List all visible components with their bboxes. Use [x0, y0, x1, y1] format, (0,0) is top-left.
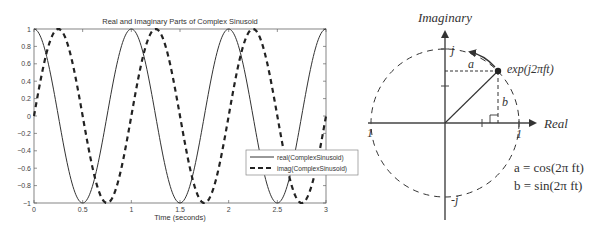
x-tick-label: 3 [324, 206, 328, 213]
y-tick-label: 0.8 [21, 43, 31, 50]
y-tick-label: −0.6 [17, 165, 31, 172]
label-b: b [502, 95, 508, 109]
y-tick-label: −0.4 [17, 147, 31, 154]
y-axis-ticks: 10.80.60.40.20−0.2−0.4−0.6−0.8−1 [17, 26, 326, 207]
y-tick-label: −1 [23, 200, 31, 207]
imag-part-curve [34, 29, 326, 203]
real-axis-label: Real [543, 116, 568, 131]
chart-title: Real and Imaginary Parts of Complex Sinu… [102, 17, 258, 26]
y-tick-label: 0.2 [21, 95, 31, 102]
label-neg-j: -j [451, 193, 459, 207]
y-tick-label: −0.8 [17, 182, 31, 189]
legend-label-real: real(ComplexSinusoid) [277, 154, 344, 162]
x-tick-label: 0 [32, 206, 36, 213]
equation-a: a = cos(2π ft) [514, 160, 584, 175]
x-tick-label: 2.5 [272, 206, 282, 213]
y-tick-label: 1 [27, 26, 31, 33]
phasor-point [495, 68, 501, 74]
legend: real(ComplexSinusoid) imag(ComplexSinuso… [246, 150, 358, 175]
label-one: 1 [516, 127, 522, 141]
label-a: a [468, 57, 474, 71]
unit-circle-phasor-diagram: Imaginary Real exp(j2πft) j -j 1 1 a b a… [360, 0, 599, 232]
x-tick-label: 0.5 [78, 206, 88, 213]
x-tick-label: 1.5 [175, 206, 185, 213]
y-tick-label: 0.4 [21, 78, 31, 85]
y-tick-label: 0 [27, 113, 31, 120]
x-tick-label: 1 [129, 206, 133, 213]
x-tick-label: 2 [227, 206, 231, 213]
x-axis-label: Time (seconds) [154, 213, 206, 222]
right-angle-marker [490, 115, 498, 123]
point-label: exp(j2πft) [507, 62, 554, 76]
y-tick-label: −0.2 [17, 130, 31, 137]
imaginary-axis-label: Imaginary [417, 10, 472, 25]
sinusoid-line-chart: Real and Imaginary Parts of Complex Sinu… [0, 0, 360, 232]
equation-b: b = sin(2π ft) [514, 178, 582, 193]
label-j: j [449, 43, 455, 57]
legend-label-imag: imag(ComplexSinusoid) [277, 165, 347, 173]
y-tick-label: 0.6 [21, 60, 31, 67]
x-axis-ticks: 00.511.522.53 [32, 29, 328, 213]
label-neg-one: 1 [367, 126, 373, 140]
